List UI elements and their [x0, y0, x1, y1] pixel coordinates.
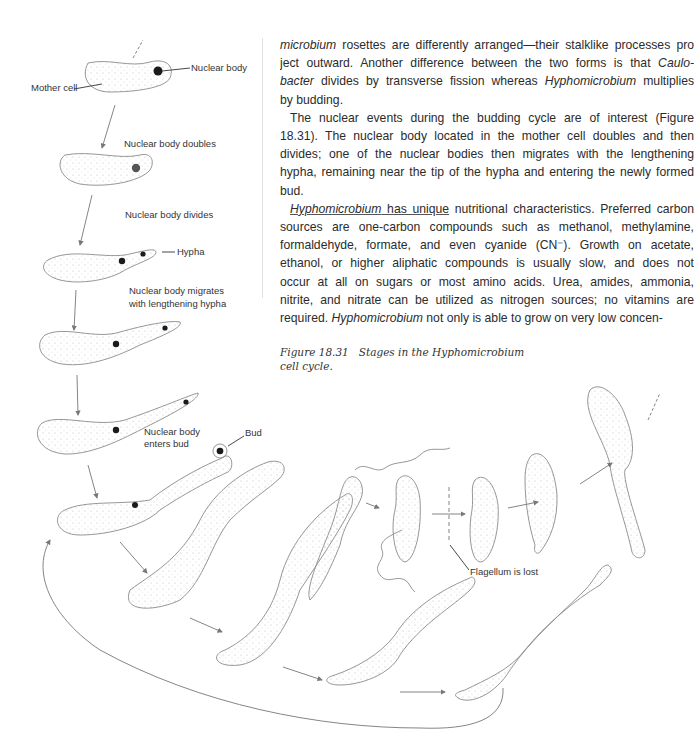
nucleus-divided-b [140, 251, 145, 256]
arrow-10 [366, 503, 379, 508]
body-text: microbium rosettes are differently arran… [280, 36, 694, 327]
text-line: formaldehyde, formate, and even cyanide … [280, 236, 694, 254]
text-line: bacter divides by transverse fission whe… [280, 72, 694, 90]
text-line: occur at all on sugars or most amino aci… [280, 273, 694, 291]
nucleus-doubled [132, 164, 140, 172]
text-line: divides; one of the nuclear bodies then … [280, 145, 694, 163]
nucleus-entering-a [113, 427, 119, 433]
pointer-flagellum [450, 545, 469, 570]
nucleus-bud [217, 448, 224, 455]
label-hypha: Hypha [177, 246, 204, 258]
label-nuclear-body-divides: Nuclear body divides [125, 209, 213, 221]
nucleus-entering-b [183, 399, 188, 404]
label-migrates-line1: Nuclear body migrates [129, 285, 224, 297]
text-line: nitrite, and nitrate can be utilized as … [280, 291, 694, 309]
text-line: microbium rosettes are differently arran… [280, 36, 694, 54]
arrow-7 [190, 618, 222, 632]
paragraph: Hyphomicrobium has unique nutritional ch… [280, 200, 694, 327]
label-flagellum-lost: Flagellum is lost [470, 566, 538, 578]
cell-hypha-medium-shape [40, 322, 181, 365]
figure-caption: Figure 18.31Stages in the Hyphomicrobium… [280, 345, 524, 373]
caption-number: Figure 18.31 [280, 346, 349, 358]
cell-hypha-short-shape [44, 250, 156, 282]
label-enters-line2: enters bud [144, 438, 189, 450]
nucleus-migrating-a [113, 341, 119, 347]
cell-stage-9-shape [327, 577, 475, 685]
label-migrates-line2: with lengthening hypha [129, 298, 226, 310]
cell-stage-8-shape [217, 494, 353, 666]
flagellum-1 [355, 448, 450, 470]
swarmer-cell-2-shape [470, 477, 498, 562]
nucleus-divided-a [119, 258, 125, 264]
label-mother-cell: Mother cell [31, 82, 77, 94]
mother-cell-shape [85, 61, 171, 92]
dashed-stalk-top [133, 40, 143, 58]
text-line: 18.31). The nuclear body located in the … [280, 127, 694, 145]
nucleus-cell-with-bud [132, 502, 138, 508]
arrow-2 [80, 195, 92, 245]
text-line: bud. [280, 182, 694, 200]
text-line: ethanol, or higher aliphatic compounds i… [280, 254, 694, 272]
label-nuclear-body: Nuclear body [191, 62, 247, 74]
cell-bud-swelling-shape [128, 461, 284, 608]
text-line: sources are one-carbon compounds such as… [280, 218, 694, 236]
dashed-stalk-right [648, 393, 660, 420]
text-line: required. Hyphomicrobium not only is abl… [280, 309, 694, 327]
label-bud: Bud [245, 427, 262, 439]
text-line: Hyphomicrobium has unique nutritional ch… [280, 200, 694, 218]
arrow-1 [102, 105, 115, 148]
arrow-4 [77, 375, 78, 415]
label-nuclear-body-doubles: Nuclear body doubles [124, 138, 216, 150]
cell-stage-10-shape [456, 565, 612, 700]
paragraph: The nuclear events during the budding cy… [280, 109, 694, 200]
text-line: hypha, remaining near the tip of the hyp… [280, 163, 694, 181]
text-line: The nuclear events during the budding cy… [280, 109, 694, 127]
arrow-3 [74, 290, 76, 330]
caption-text-1: Stages in the Hyphomicrobium [359, 346, 525, 358]
column-rule [262, 38, 263, 298]
swarmer-cell-1-shape [393, 476, 420, 562]
caption-text-2: cell cycle. [280, 359, 524, 373]
pointer-bud [228, 436, 244, 446]
nucleus-mother [154, 67, 163, 76]
arrow-13 [580, 463, 612, 484]
text-line: by budding. [280, 91, 694, 109]
arrow-8 [283, 667, 322, 680]
text-line: ject outward. Another difference between… [280, 54, 694, 72]
caption-line-1: Figure 18.31Stages in the Hyphomicrobium [280, 345, 524, 359]
nucleus-migrating-b [162, 325, 167, 330]
arrow-5 [88, 465, 97, 498]
swarmer-elongating-shape [588, 387, 645, 558]
arrow-6 [120, 542, 147, 573]
label-enters-line1: Nuclear body [144, 426, 200, 438]
paragraph: microbium rosettes are differently arran… [280, 36, 694, 109]
